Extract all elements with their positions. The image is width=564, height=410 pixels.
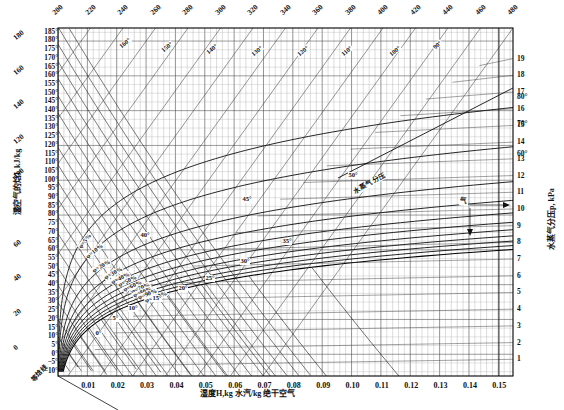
y-axis-title: 湿空气的焓I, kJ/kg xyxy=(14,149,22,215)
right-tick: 14 xyxy=(517,138,525,146)
wet-bulb-label: 30° xyxy=(240,258,250,265)
right-tick: 8 xyxy=(517,238,521,246)
right-tick: 16 xyxy=(517,105,525,113)
left-temp-tick: 25° xyxy=(36,307,58,314)
left-temp-tick: 100° xyxy=(36,177,58,184)
x-tick: 0.01 xyxy=(77,382,99,390)
wet-bulb-label: 45° xyxy=(242,196,252,203)
left-temp-tick: 70° xyxy=(36,229,58,236)
left-temp-tick: 0° xyxy=(36,351,58,358)
right-tick: 6 xyxy=(517,272,521,280)
chart-plot-area xyxy=(0,0,564,410)
x-tick: 0.14 xyxy=(459,382,481,390)
left-temp-tick: 10° xyxy=(36,333,58,340)
psychrometric-chart: 185°180°175°170°165°160°155°150°145°140°… xyxy=(0,0,564,410)
right-tick: 12 xyxy=(517,172,525,180)
right-tick: 3 xyxy=(517,322,521,330)
left-temp-tick: 5° xyxy=(36,342,58,349)
x-tick: 0.13 xyxy=(430,382,452,390)
left-temp-tick: 120° xyxy=(36,142,58,149)
left-temp-tick: 175° xyxy=(36,46,58,53)
x-tick: 0.03 xyxy=(136,382,158,390)
x-tick: 0.02 xyxy=(107,382,129,390)
x-tick: 0.10 xyxy=(342,382,364,390)
left-temp-tick: 30° xyxy=(36,298,58,305)
wet-bulb-label: 25° xyxy=(205,275,215,282)
wet-bulb-label: 35° xyxy=(282,238,292,245)
right-tick: 5 xyxy=(517,288,521,296)
left-temp-tick: 115° xyxy=(36,151,58,158)
left-temp-tick: 150° xyxy=(36,90,58,97)
left-temp-tick: 95° xyxy=(36,185,58,192)
left-temp-tick: 35° xyxy=(36,290,58,297)
right-tick: 9 xyxy=(517,222,521,230)
right-tick: 4 xyxy=(517,305,521,313)
x-axis-title: 湿度H,kg 水汽/kg 绝干空气 xyxy=(200,390,295,398)
wet-bulb-label: 40° xyxy=(140,232,150,239)
left-temp-tick: 105° xyxy=(36,168,58,175)
right-tick: 2 xyxy=(517,339,521,347)
left-temp-tick: 180° xyxy=(36,37,58,44)
left-temp-tick: 85° xyxy=(36,203,58,210)
right-tick: 18 xyxy=(517,71,525,79)
left-temp-tick: 40° xyxy=(36,281,58,288)
wet-bulb-label: 15° xyxy=(152,295,162,302)
x-tick: 0.04 xyxy=(165,382,187,390)
left-temp-tick: 165° xyxy=(36,64,58,71)
wet-bulb-label: 0° xyxy=(95,330,102,337)
right-tick: 1 xyxy=(517,355,521,363)
right-temp-label: 80° xyxy=(517,93,528,101)
left-temp-tick: 55° xyxy=(36,255,58,262)
right-tick: 19 xyxy=(517,55,525,63)
left-temp-tick: 90° xyxy=(36,194,58,201)
right-tick: 11 xyxy=(517,188,524,196)
wet-bulb-label: 50° xyxy=(348,172,358,179)
right-temp-label: 60° xyxy=(517,150,528,158)
right-tick: 10 xyxy=(517,205,525,213)
left-temp-tick: 125° xyxy=(36,133,58,140)
x-tick: 0.12 xyxy=(400,382,422,390)
left-temp-tick: 130° xyxy=(36,124,58,131)
left-temp-tick: 50° xyxy=(36,264,58,271)
left-temp-tick: 60° xyxy=(36,246,58,253)
left-temp-tick: 45° xyxy=(36,272,58,279)
left-temp-tick: 75° xyxy=(36,220,58,227)
left-temp-tick: 20° xyxy=(36,316,58,323)
left-temp-tick: 185° xyxy=(36,29,58,36)
wet-bulb-label: 5° xyxy=(112,315,119,322)
x-tick: 0.11 xyxy=(371,382,393,390)
left-temp-tick: 145° xyxy=(36,98,58,105)
arrow-callout-label: 气 xyxy=(459,198,468,205)
left-temp-tick: 65° xyxy=(36,238,58,245)
left-temp-tick: 155° xyxy=(36,81,58,88)
left-temp-tick: 135° xyxy=(36,116,58,123)
left-temp-tick: 140° xyxy=(36,107,58,114)
y2-axis-title: 水蒸气分压p, kPa xyxy=(548,188,556,250)
right-temp-label: 70° xyxy=(517,120,528,128)
right-tick: 7 xyxy=(517,255,521,263)
x-tick: 0.15 xyxy=(488,382,510,390)
left-temp-tick: 170° xyxy=(36,55,58,62)
wet-bulb-label: 10° xyxy=(128,305,138,312)
left-temp-tick: 80° xyxy=(36,211,58,218)
left-temp-tick: 160° xyxy=(36,72,58,79)
left-temp-tick: 110° xyxy=(36,159,58,166)
left-temp-tick: 15° xyxy=(36,325,58,332)
wet-bulb-label: 20° xyxy=(178,285,188,292)
x-tick: 0.09 xyxy=(312,382,334,390)
